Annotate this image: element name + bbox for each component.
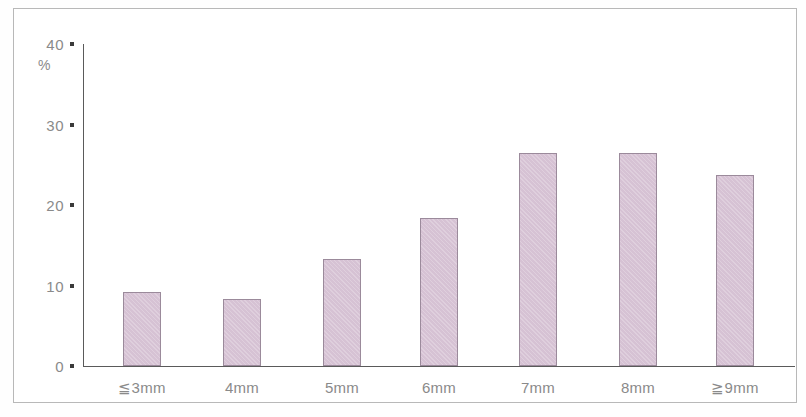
x-tick-label-3: 5mm bbox=[287, 379, 397, 397]
x-tick-label-5: 7mm bbox=[483, 379, 593, 397]
y-tick-label-10: 10 bbox=[26, 279, 64, 294]
y-axis-unit-label: % bbox=[38, 58, 50, 72]
y-tick-mark-40 bbox=[70, 42, 74, 46]
bar-5 bbox=[519, 153, 557, 366]
y-tick-mark-10 bbox=[70, 284, 74, 288]
bar-6 bbox=[619, 153, 657, 366]
y-tick-mark-0 bbox=[70, 364, 74, 368]
x-tick-label-4: 6mm bbox=[384, 379, 494, 397]
y-tick-label-0: 0 bbox=[26, 359, 64, 374]
y-axis-line bbox=[83, 44, 84, 367]
bar-1 bbox=[123, 292, 161, 366]
y-tick-label-40-wrap: 40 bbox=[22, 37, 64, 52]
y-tick-label-20-wrap: 20 bbox=[22, 198, 64, 213]
y-tick-label-10-wrap: 10 bbox=[22, 279, 64, 294]
y-tick-mark-20 bbox=[70, 203, 74, 207]
y-tick-label-0-wrap: 0 bbox=[22, 359, 64, 374]
plot-area: 0 10 20 30 40 % ≦3mm 4mm 5mm 6mm 7mm 8mm… bbox=[0, 0, 806, 417]
bar-2 bbox=[223, 299, 261, 366]
bar-4 bbox=[420, 218, 458, 366]
bar-3 bbox=[323, 259, 361, 366]
y-tick-mark-30 bbox=[70, 123, 74, 127]
x-tick-label-7: ≧9mm bbox=[680, 379, 790, 397]
x-tick-label-2: 4mm bbox=[187, 379, 297, 397]
chart-figure: 0 10 20 30 40 % ≦3mm 4mm 5mm 6mm 7mm 8mm… bbox=[0, 0, 806, 417]
y-tick-label-20: 20 bbox=[26, 198, 64, 213]
y-tick-label-40: 40 bbox=[26, 37, 64, 52]
x-axis-line bbox=[83, 366, 795, 367]
x-tick-label-1: ≦3mm bbox=[87, 379, 197, 397]
y-tick-label-30-wrap: 30 bbox=[22, 118, 64, 133]
y-tick-label-30: 30 bbox=[26, 118, 64, 133]
x-tick-label-6: 8mm bbox=[583, 379, 693, 397]
bar-7 bbox=[716, 175, 754, 366]
